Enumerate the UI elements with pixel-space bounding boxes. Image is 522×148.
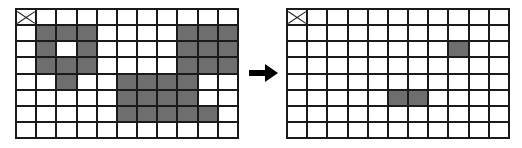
empty-cell[interactable] <box>389 42 409 58</box>
filled-cell[interactable] <box>178 75 198 91</box>
empty-cell[interactable] <box>349 91 369 107</box>
empty-cell[interactable] <box>17 75 37 91</box>
empty-cell[interactable] <box>288 91 308 107</box>
filled-cell[interactable] <box>219 58 239 74</box>
empty-cell[interactable] <box>470 123 490 139</box>
filled-cell[interactable] <box>118 91 138 107</box>
empty-cell[interactable] <box>470 107 490 123</box>
empty-cell[interactable] <box>429 75 449 91</box>
empty-cell[interactable] <box>98 26 118 42</box>
empty-cell[interactable] <box>409 10 429 26</box>
empty-cell[interactable] <box>219 75 239 91</box>
empty-cell[interactable] <box>118 10 138 26</box>
empty-cell[interactable] <box>389 75 409 91</box>
empty-cell[interactable] <box>429 26 449 42</box>
empty-cell[interactable] <box>389 107 409 123</box>
output-grid[interactable] <box>286 8 510 139</box>
empty-cell[interactable] <box>57 91 77 107</box>
empty-cell[interactable] <box>449 91 469 107</box>
empty-cell[interactable] <box>308 107 328 123</box>
empty-cell[interactable] <box>429 123 449 139</box>
origin-marker-cell[interactable] <box>17 10 37 26</box>
empty-cell[interactable] <box>328 10 348 26</box>
empty-cell[interactable] <box>409 58 429 74</box>
empty-cell[interactable] <box>449 26 469 42</box>
empty-cell[interactable] <box>389 58 409 74</box>
empty-cell[interactable] <box>369 26 389 42</box>
empty-cell[interactable] <box>98 107 118 123</box>
empty-cell[interactable] <box>308 26 328 42</box>
empty-cell[interactable] <box>349 123 369 139</box>
empty-cell[interactable] <box>37 91 57 107</box>
empty-cell[interactable] <box>328 75 348 91</box>
empty-cell[interactable] <box>449 75 469 91</box>
empty-cell[interactable] <box>138 10 158 26</box>
empty-cell[interactable] <box>17 58 37 74</box>
empty-cell[interactable] <box>178 10 198 26</box>
empty-cell[interactable] <box>470 75 490 91</box>
empty-cell[interactable] <box>429 58 449 74</box>
empty-cell[interactable] <box>429 42 449 58</box>
filled-cell[interactable] <box>78 26 98 42</box>
empty-cell[interactable] <box>78 91 98 107</box>
filled-cell[interactable] <box>389 91 409 107</box>
empty-cell[interactable] <box>389 10 409 26</box>
filled-cell[interactable] <box>219 42 239 58</box>
empty-cell[interactable] <box>118 58 138 74</box>
empty-cell[interactable] <box>328 58 348 74</box>
empty-cell[interactable] <box>118 42 138 58</box>
empty-cell[interactable] <box>490 58 510 74</box>
empty-cell[interactable] <box>328 107 348 123</box>
empty-cell[interactable] <box>429 91 449 107</box>
empty-cell[interactable] <box>98 75 118 91</box>
filled-cell[interactable] <box>219 26 239 42</box>
empty-cell[interactable] <box>449 58 469 74</box>
empty-cell[interactable] <box>308 42 328 58</box>
empty-cell[interactable] <box>409 26 429 42</box>
empty-cell[interactable] <box>389 123 409 139</box>
empty-cell[interactable] <box>349 75 369 91</box>
empty-cell[interactable] <box>199 10 219 26</box>
empty-cell[interactable] <box>470 26 490 42</box>
empty-cell[interactable] <box>37 123 57 139</box>
empty-cell[interactable] <box>78 10 98 26</box>
empty-cell[interactable] <box>57 123 77 139</box>
filled-cell[interactable] <box>178 26 198 42</box>
empty-cell[interactable] <box>138 58 158 74</box>
empty-cell[interactable] <box>308 123 328 139</box>
empty-cell[interactable] <box>57 107 77 123</box>
filled-cell[interactable] <box>37 42 57 58</box>
empty-cell[interactable] <box>288 123 308 139</box>
empty-cell[interactable] <box>470 91 490 107</box>
empty-cell[interactable] <box>409 107 429 123</box>
empty-cell[interactable] <box>199 123 219 139</box>
empty-cell[interactable] <box>158 26 178 42</box>
empty-cell[interactable] <box>219 107 239 123</box>
empty-cell[interactable] <box>17 26 37 42</box>
empty-cell[interactable] <box>57 10 77 26</box>
empty-cell[interactable] <box>17 123 37 139</box>
empty-cell[interactable] <box>158 58 178 74</box>
empty-cell[interactable] <box>490 26 510 42</box>
empty-cell[interactable] <box>409 42 429 58</box>
filled-cell[interactable] <box>178 91 198 107</box>
empty-cell[interactable] <box>349 10 369 26</box>
origin-marker-cell[interactable] <box>288 10 308 26</box>
empty-cell[interactable] <box>490 75 510 91</box>
empty-cell[interactable] <box>17 91 37 107</box>
filled-cell[interactable] <box>199 42 219 58</box>
filled-cell[interactable] <box>178 42 198 58</box>
empty-cell[interactable] <box>37 75 57 91</box>
empty-cell[interactable] <box>288 42 308 58</box>
empty-cell[interactable] <box>349 26 369 42</box>
input-grid[interactable] <box>15 8 239 139</box>
empty-cell[interactable] <box>158 42 178 58</box>
empty-cell[interactable] <box>409 75 429 91</box>
filled-cell[interactable] <box>57 75 77 91</box>
empty-cell[interactable] <box>490 10 510 26</box>
empty-cell[interactable] <box>37 107 57 123</box>
empty-cell[interactable] <box>98 123 118 139</box>
empty-cell[interactable] <box>328 42 348 58</box>
empty-cell[interactable] <box>369 91 389 107</box>
empty-cell[interactable] <box>98 91 118 107</box>
